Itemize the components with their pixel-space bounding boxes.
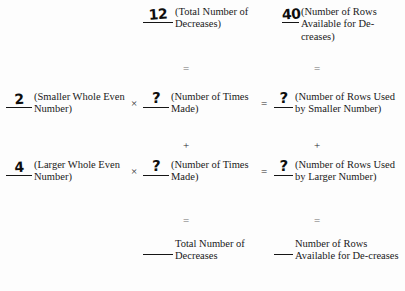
label-rows-available-top: (Number of Rows Available for De-creases…: [301, 6, 405, 43]
handwritten-value-rows-used-smaller: ?: [274, 90, 293, 106]
field-total-decreases-top[interactable]: 12 (Total Number of Decreases): [143, 6, 267, 31]
handwritten-value-times-made-smaller: ?: [143, 90, 169, 106]
operator-equals-upper-middle: =: [183, 63, 189, 74]
field-larger-even-number[interactable]: 4 (Larger Whole Even Number): [6, 159, 142, 184]
operator-equals-lower-right: =: [314, 215, 320, 226]
handwritten-value-rows-available: 40: [282, 6, 300, 21]
answer-slot-rows-available-top[interactable]: 40: [282, 6, 299, 23]
operator-plus-right: +: [314, 140, 320, 151]
field-times-made-larger[interactable]: ? (Number of Times Made): [143, 159, 263, 184]
field-total-decreases-bottom[interactable]: Total Number of Decreases: [143, 238, 267, 263]
answer-slot-times-made-smaller[interactable]: ?: [143, 91, 169, 108]
operator-multiply-larger-row: ×: [131, 166, 137, 177]
label-times-made-larger: (Number of Times Made): [171, 159, 263, 184]
field-rows-used-smaller[interactable]: ? (Number of Rows Used by Smaller Number…: [274, 91, 405, 116]
handwritten-value-rows-available-bottom: [274, 252, 293, 253]
field-times-made-smaller[interactable]: ? (Number of Times Made): [143, 91, 263, 116]
label-larger-even-number: (Larger Whole Even Number): [34, 159, 142, 184]
field-rows-used-larger[interactable]: ? (Number of Rows Used by Larger Number): [274, 159, 405, 184]
label-rows-used-larger: (Number of Rows Used by Larger Number): [295, 159, 405, 184]
label-total-decreases-bottom: Total Number of Decreases: [175, 238, 267, 263]
label-smaller-even-number: (Smaller Whole Even Number): [34, 91, 142, 116]
worksheet-page: 12 (Total Number of Decreases) 40 (Numbe…: [0, 0, 405, 291]
answer-slot-smaller-number[interactable]: 2: [6, 91, 32, 108]
label-times-made-smaller: (Number of Times Made): [171, 91, 263, 116]
answer-slot-total-decreases-top[interactable]: 12: [143, 6, 173, 23]
handwritten-value-rows-used-larger: ?: [274, 158, 293, 174]
label-rows-available-bottom: Number of Rows Available for De-creases: [295, 238, 405, 263]
handwritten-value-times-made-larger: ?: [143, 158, 169, 174]
answer-slot-total-decreases-bottom[interactable]: [143, 238, 173, 255]
label-rows-used-smaller: (Number of Rows Used by Smaller Number): [295, 91, 405, 116]
answer-slot-rows-available-bottom[interactable]: [274, 238, 293, 255]
handwritten-value-smaller-number: 2: [6, 91, 33, 107]
answer-slot-larger-number[interactable]: 4: [6, 159, 32, 176]
handwritten-value-total-decreases-bottom: [143, 252, 173, 254]
operator-equals-larger-row: =: [261, 166, 267, 177]
field-smaller-even-number[interactable]: 2 (Smaller Whole Even Number): [6, 91, 142, 116]
answer-slot-rows-used-smaller[interactable]: ?: [274, 91, 293, 108]
operator-multiply-smaller-row: ×: [131, 98, 137, 109]
operator-plus-middle: +: [183, 140, 189, 151]
field-rows-available-top[interactable]: 40 (Number of Rows Available for De-crea…: [282, 6, 405, 43]
label-total-decreases-top: (Total Number of Decreases): [175, 6, 267, 31]
handwritten-value-larger-number: 4: [6, 159, 33, 175]
field-rows-available-bottom[interactable]: Number of Rows Available for De-creases: [274, 238, 405, 263]
operator-equals-lower-middle: =: [183, 215, 189, 226]
answer-slot-rows-used-larger[interactable]: ?: [274, 159, 293, 176]
operator-equals-upper-right: =: [314, 63, 320, 74]
handwritten-value-total-decreases: 12: [143, 6, 174, 22]
operator-equals-smaller-row: =: [261, 98, 267, 109]
answer-slot-times-made-larger[interactable]: ?: [143, 159, 169, 176]
